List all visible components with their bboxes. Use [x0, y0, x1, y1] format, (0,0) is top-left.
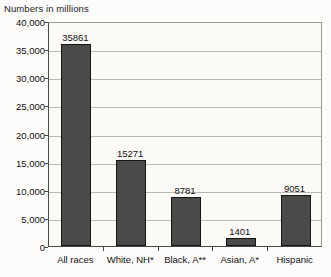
y-axis-tick-label: 30,000 [4, 73, 48, 84]
y-axis: 05,00010,00015,00020,00025,00030,00035,0… [0, 0, 48, 277]
y-axis-tick-label: 0 [4, 242, 48, 253]
bar-value-label: 1401 [229, 226, 250, 237]
x-axis-tick-label: All races [57, 254, 93, 265]
x-axis-tick-label: White, NH* [107, 254, 154, 265]
bar [116, 160, 146, 246]
y-axis-tick-label: 10,000 [4, 185, 48, 196]
bar [171, 197, 201, 246]
y-axis-tick-label: 5,000 [4, 213, 48, 224]
y-axis-tick [44, 247, 48, 248]
bar-value-label: 8781 [174, 185, 195, 196]
bar [61, 44, 91, 246]
y-axis-tick [44, 163, 48, 164]
y-axis-tick [44, 22, 48, 23]
x-axis-tick-label: Hispanic [276, 254, 312, 265]
bar [281, 195, 311, 246]
y-axis-tick [44, 106, 48, 107]
y-axis-tick-label: 15,000 [4, 157, 48, 168]
y-axis-tick-label: 25,000 [4, 101, 48, 112]
y-axis-tick-label: 35,000 [4, 45, 48, 56]
bar-value-label: 35861 [62, 32, 88, 43]
x-axis-tick-label: Asian, A* [221, 254, 260, 265]
y-axis-tick [44, 135, 48, 136]
bar-value-label: 15271 [117, 148, 143, 159]
y-axis-tick [44, 78, 48, 79]
y-axis-tick [44, 191, 48, 192]
y-axis-tick-label: 20,000 [4, 129, 48, 140]
bar [226, 238, 256, 246]
y-axis-tick [44, 50, 48, 51]
bar-value-label: 9051 [284, 183, 305, 194]
chart-figure: Numbers in millions 05,00010,00015,00020… [0, 0, 331, 277]
x-axis-tick-label: Black, A** [164, 254, 206, 265]
y-axis-tick-label: 40,000 [4, 17, 48, 28]
x-axis-tick [158, 247, 159, 251]
y-axis-tick [44, 219, 48, 220]
x-axis-tick [267, 247, 268, 251]
plot-area [48, 22, 322, 247]
x-axis-tick [103, 247, 104, 251]
x-axis-tick [212, 247, 213, 251]
